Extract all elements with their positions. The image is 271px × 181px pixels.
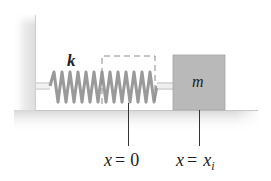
- spring-mass-diagram: k m x=0 x=xi: [0, 0, 271, 181]
- wall: [12, 14, 36, 111]
- origin-position-label: x=0: [103, 150, 139, 170]
- mass-label: m: [192, 73, 204, 90]
- initial-position-label: x=xi: [175, 150, 215, 173]
- floor: [14, 110, 260, 132]
- spring-constant-label: k: [67, 51, 76, 70]
- spring: [36, 72, 173, 102]
